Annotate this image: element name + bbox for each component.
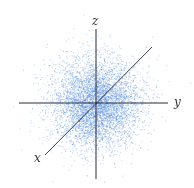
x-axis-label: x bbox=[34, 152, 41, 164]
y-axis-label: y bbox=[174, 96, 181, 108]
x-axis-line bbox=[45, 47, 152, 155]
axes-layer bbox=[0, 0, 194, 188]
z-axis-label: z bbox=[92, 15, 98, 27]
scatter-figure: x y z bbox=[0, 0, 194, 188]
